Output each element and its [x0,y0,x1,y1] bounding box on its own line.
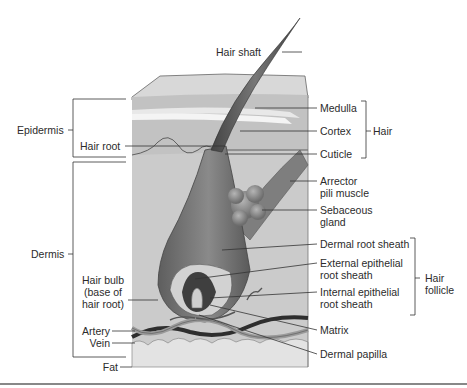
label-internal-epithelial-root-sheath: Internal epithelial root sheath [320,286,399,310]
label-artery: Artery [60,325,110,337]
label-dermal-root-sheath: Dermal root sheath [320,238,409,250]
label-hair-shaft: Hair shaft [216,46,261,58]
label-medulla: Medulla [320,102,357,114]
label-dermis: Dermis [31,248,64,260]
label-hair-bulb: Hair bulb (base of hair root) [78,274,128,310]
bottom-divider [0,383,467,385]
label-cortex: Cortex [320,125,351,137]
label-cuticle: Cuticle [320,148,352,160]
label-epidermis: Epidermis [17,124,64,136]
label-hair: Hair [373,125,392,137]
label-hair-root: Hair root [80,140,120,152]
label-hair-follicle: Hair follicle [425,272,454,296]
label-dermal-papilla: Dermal papilla [320,348,387,360]
label-sebaceous-gland: Sebaceous gland [320,204,373,228]
label-matrix: Matrix [320,324,349,336]
label-arrector-pili-muscle: Arrector pili muscle [320,175,369,199]
label-external-epithelial-root-sheath: External epithelial root sheath [320,257,403,281]
label-vein: Vein [60,337,110,349]
label-fat: Fat [68,361,118,373]
